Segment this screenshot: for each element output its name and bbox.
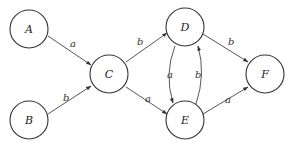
edge-label-e-d: b bbox=[195, 69, 201, 80]
svg-text:B: B bbox=[24, 114, 33, 127]
svg-text:F: F bbox=[260, 68, 269, 81]
edge-label-b-c: b bbox=[63, 92, 69, 103]
node-c: C bbox=[90, 55, 128, 93]
edge-c-d bbox=[126, 33, 167, 62]
node-f: F bbox=[246, 55, 284, 93]
edge-label-a-c: a bbox=[70, 38, 76, 49]
edge-label-e-f: a bbox=[225, 94, 231, 105]
node-e: E bbox=[166, 101, 204, 139]
state-diagram: a b b a a b b a A B C D E F bbox=[0, 0, 291, 147]
svg-text:E: E bbox=[180, 114, 189, 127]
edge-b-c bbox=[48, 86, 91, 114]
svg-text:D: D bbox=[180, 21, 190, 34]
edge-label-d-e: a bbox=[167, 69, 173, 80]
node-a: A bbox=[10, 10, 48, 48]
edge-label-d-f: b bbox=[228, 36, 234, 47]
node-b: B bbox=[10, 101, 48, 139]
edge-label-c-e: a bbox=[145, 93, 151, 104]
svg-text:C: C bbox=[105, 68, 114, 81]
node-d: D bbox=[166, 8, 204, 46]
svg-text:A: A bbox=[24, 23, 33, 36]
edge-label-c-d: b bbox=[137, 36, 143, 47]
edge-d-f bbox=[203, 34, 248, 62]
